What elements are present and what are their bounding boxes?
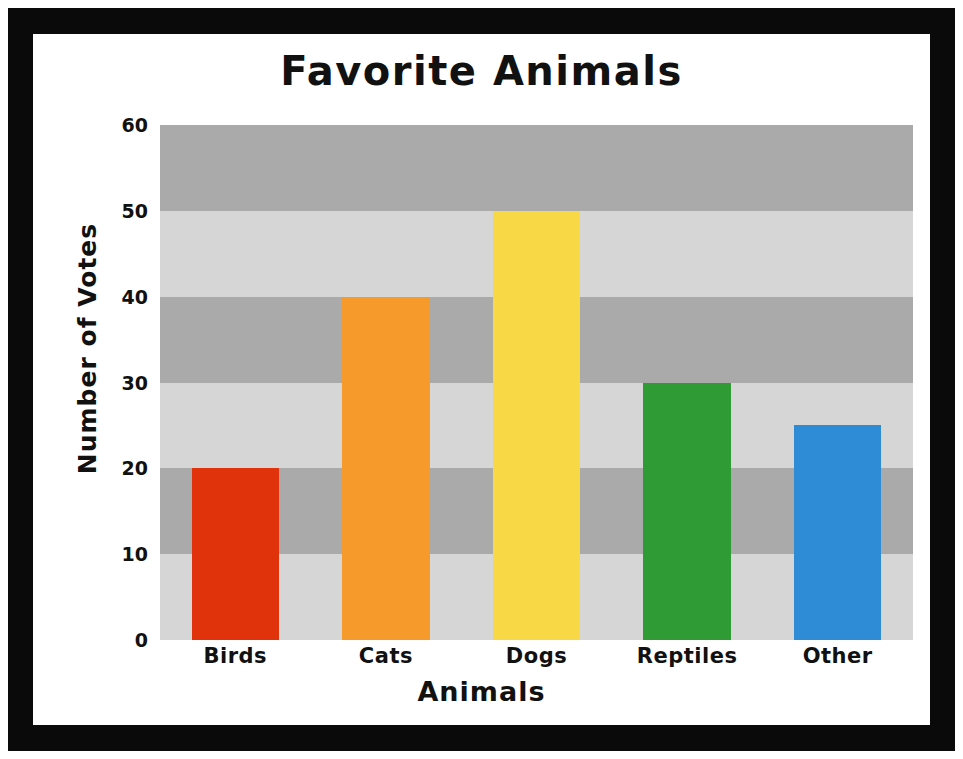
- x-tick-label-reptiles: Reptiles: [612, 644, 763, 668]
- y-tick-label: 30: [78, 372, 148, 394]
- bar-dogs[interactable]: [493, 211, 580, 640]
- x-tick-label-birds: Birds: [160, 644, 311, 668]
- y-tick-label: 60: [78, 114, 148, 136]
- y-tick-label: 20: [78, 457, 148, 479]
- bars-group: [160, 125, 913, 640]
- chart-canvas: Favorite Animals Number of Votes 0102030…: [33, 34, 930, 725]
- x-tick-label-other: Other: [762, 644, 913, 668]
- plot-area: [160, 125, 913, 640]
- x-tick-label-cats: Cats: [311, 644, 462, 668]
- bar-birds[interactable]: [192, 468, 279, 640]
- y-axis-title: Number of Votes: [73, 199, 102, 499]
- poster-frame: Favorite Animals Number of Votes 0102030…: [8, 8, 955, 751]
- bar-cats[interactable]: [342, 297, 429, 640]
- x-axis-title: Animals: [33, 676, 930, 707]
- y-tick-label: 50: [78, 200, 148, 222]
- bar-reptiles[interactable]: [643, 383, 730, 641]
- x-tick-label-dogs: Dogs: [461, 644, 612, 668]
- chart-title: Favorite Animals: [33, 48, 930, 94]
- y-tick-label: 0: [78, 629, 148, 651]
- y-tick-label: 10: [78, 543, 148, 565]
- bar-other[interactable]: [794, 425, 881, 640]
- y-tick-label: 40: [78, 286, 148, 308]
